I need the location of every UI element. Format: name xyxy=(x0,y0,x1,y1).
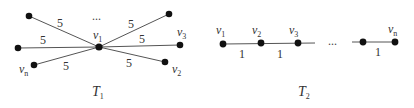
weight-t2-last: 1 xyxy=(375,45,381,59)
weight-t2-v2-v3: 1 xyxy=(277,47,283,61)
weight-t1-upper-right: 5 xyxy=(128,17,134,31)
node-t1-upper-right xyxy=(166,11,173,18)
graph-diagram: 5 5 5 5 5 5 ... v1 v3 v2 vn T1 1 1 1 ...… xyxy=(0,0,414,108)
ellipsis-t1: ... xyxy=(92,9,101,23)
weight-t1-v2: 5 xyxy=(126,56,132,70)
label-t1-v3: v3 xyxy=(177,25,186,41)
weight-t1-upper-left: 5 xyxy=(57,16,63,30)
node-t2-vn-minus-1 xyxy=(360,39,367,46)
weight-t1-left: 5 xyxy=(40,33,46,47)
caption-t2: T2 xyxy=(298,84,310,101)
node-t2-v3 xyxy=(295,40,302,47)
edge-t1-v2 xyxy=(99,47,165,62)
node-t2-vn xyxy=(392,39,399,46)
node-t1-left xyxy=(15,45,22,52)
weight-t2-v1-v2: 1 xyxy=(239,47,245,61)
label-t2-v2: v2 xyxy=(252,23,261,39)
node-t1-vn xyxy=(31,62,38,69)
edge-t1-upper-right xyxy=(99,14,169,47)
label-t2-v1: v1 xyxy=(216,23,225,39)
tree-t2: 1 1 1 ... v1 v2 v3 vn T2 xyxy=(216,22,398,101)
edge-t1-left xyxy=(18,47,99,48)
node-t1-upper-left xyxy=(26,13,33,20)
ellipsis-t2: ... xyxy=(328,34,337,48)
node-t2-v1 xyxy=(220,41,227,48)
label-t2-vn: vn xyxy=(388,22,397,38)
label-t1-v1: v1 xyxy=(93,28,102,44)
caption-t1: T1 xyxy=(92,84,104,101)
label-t2-v3: v3 xyxy=(289,23,298,39)
node-t1-v2 xyxy=(162,59,169,66)
node-t1-v1 xyxy=(95,43,102,50)
label-t1-v2: v2 xyxy=(172,62,181,78)
node-t2-v2 xyxy=(258,40,265,47)
weight-t1-v3: 5 xyxy=(139,32,145,46)
weight-t1-vn: 5 xyxy=(63,59,69,73)
tree-t1: 5 5 5 5 5 5 ... v1 v3 v2 vn T1 xyxy=(15,9,187,101)
node-t1-v3 xyxy=(177,42,184,49)
label-t1-vn: vn xyxy=(19,62,28,78)
